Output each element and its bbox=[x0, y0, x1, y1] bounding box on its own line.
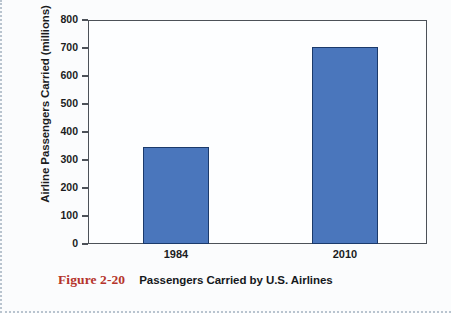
y-axis-tick-label: 600 bbox=[60, 69, 78, 81]
y-axis-tick-label: 100 bbox=[60, 209, 78, 221]
x-axis-tick-label: 2010 bbox=[312, 248, 378, 260]
y-axis-tick-label: 700 bbox=[60, 41, 78, 53]
y-axis-tick-label: 0 bbox=[72, 237, 78, 249]
figure-caption: Figure 2-20 Passengers Carried by U.S. A… bbox=[58, 272, 333, 288]
figure-page: Airline Passengers Carried (millions) 01… bbox=[0, 0, 451, 313]
x-axis-tick-label: 1984 bbox=[143, 248, 209, 260]
caption-title: Passengers Carried by U.S. Airlines bbox=[139, 274, 332, 286]
y-axis-tick-label: 400 bbox=[60, 125, 78, 137]
y-axis-tick-label: 800 bbox=[60, 13, 78, 25]
y-axis-tick-label: 200 bbox=[60, 181, 78, 193]
y-axis-tick-label: 500 bbox=[60, 97, 78, 109]
bar-chart-figure: Airline Passengers Carried (millions) 01… bbox=[2, 0, 451, 313]
y-axis-tick-label: 300 bbox=[60, 153, 78, 165]
bar-2010 bbox=[312, 47, 378, 244]
y-axis-title: Airline Passengers Carried (millions) bbox=[39, 0, 51, 209]
bar-1984 bbox=[143, 147, 209, 244]
caption-figure-number: Figure 2-20 bbox=[58, 272, 125, 288]
